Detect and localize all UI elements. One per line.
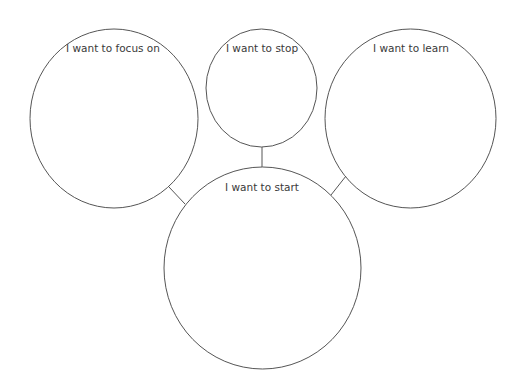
label-focus: I want to focus on bbox=[66, 42, 160, 54]
connector-learn-start bbox=[331, 176, 346, 195]
label-stop: I want to stop bbox=[226, 42, 298, 54]
bubble-focus bbox=[30, 29, 198, 208]
bubble-learn bbox=[325, 29, 496, 208]
connector-focus-start bbox=[169, 187, 185, 204]
bubble-start bbox=[164, 167, 361, 369]
bubble-diagram: I want to focus on I want to stop I want… bbox=[0, 0, 521, 388]
label-learn: I want to learn bbox=[373, 42, 449, 54]
label-start: I want to start bbox=[225, 181, 299, 193]
